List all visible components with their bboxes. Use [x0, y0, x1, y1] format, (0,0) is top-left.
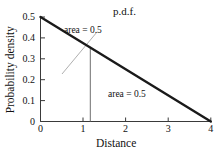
area-annotation-left: area = 0.5	[64, 26, 102, 36]
y-tick-label-1-wrap: 0.1	[11, 96, 35, 106]
y-tick-label-2-wrap: 0.2	[11, 75, 35, 85]
y-tick-label-5-wrap: 0.5	[11, 12, 35, 22]
y-tick-label: 0.4	[11, 33, 35, 43]
pdf-chart-figure: p.d.f. Probability density Distance 0 0.…	[0, 0, 223, 154]
y-tick-marks	[41, 17, 46, 122]
annotation-leader-line	[62, 32, 97, 74]
x-axis-title: Distance	[96, 138, 136, 150]
y-tick-label: 0.1	[11, 96, 35, 106]
x-tick-label: 1	[73, 124, 93, 134]
x-tick-marks	[41, 118, 211, 122]
y-tick-label-4-wrap: 0.4	[11, 33, 35, 43]
x-tick-label: 2	[116, 124, 136, 134]
y-tick-label-3-wrap: 0.3	[11, 54, 35, 64]
y-tick-label: 0.5	[11, 12, 35, 22]
y-tick-label: 0.2	[11, 75, 35, 85]
y-tick-label: 0.3	[11, 54, 35, 64]
x-tick-label: 0	[31, 124, 51, 134]
area-annotation-right: area = 0.5	[108, 90, 146, 100]
x-tick-label: 3	[158, 124, 178, 134]
chart-title: p.d.f.	[113, 6, 136, 17]
x-tick-label: 4	[201, 124, 221, 134]
